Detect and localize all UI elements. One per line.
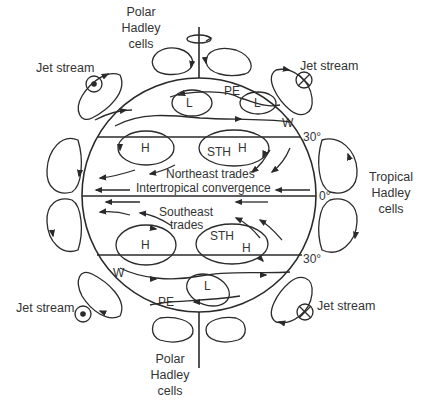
low-north-1-label: L [186,96,193,110]
polar-cell-bottom-left [153,318,194,342]
pe-south-label: PE [158,295,174,309]
low-north-2-label: L [254,96,261,110]
sth-south-label: STH [210,229,234,243]
pe-north-label: PE [224,84,240,98]
polar-cell-top-left [152,48,193,75]
high-north-2-label: H [238,141,247,155]
high-south-1-label: H [141,238,150,252]
itcz-label: Intertropical convergence [136,181,271,195]
w-north-label: W [282,116,294,130]
polar-cell-top-right [206,49,251,76]
sth-north-label: STH [207,145,231,159]
lat-30n-label: 30° [303,130,321,144]
southeast-trades-label-2: trades [170,218,203,232]
tropical-cell-left-north [47,138,81,193]
polar-cells-bottom-label-1: Polar [155,352,184,366]
lat-30s-label: 30° [303,252,321,266]
polar-cells-top-label-1: Polar [126,5,155,19]
tropical-cells-label-3: cells [378,202,403,216]
tropical-cells-label-1: Tropical [369,170,413,184]
jet-stream-label-ne: Jet stream [300,59,358,73]
jet-stream-label-nw: Jet stream [36,61,94,75]
ferrel-cell-outer-se [271,278,312,323]
global-circulation-diagram: 30° 0° 30° [0,0,426,406]
westerly-south [120,268,290,279]
polar-cells-bottom-label-2: Hadley [151,368,191,382]
tropical-cell-right-north [319,139,357,193]
polar-cells-bottom-label-3: cells [157,384,182,398]
high-north-1-label: H [141,141,150,155]
polar-cell-bottom-right [206,318,245,342]
w-south-label: W [113,266,125,280]
jet-stream-label-se: Jet stream [317,299,375,313]
polar-cells-top-label-3: cells [128,37,153,51]
westerly-north [115,115,290,126]
high-south-2-label: H [242,241,251,255]
northeast-trades-label: Northeast trades [166,167,255,181]
tropical-cell-left-south [47,199,81,251]
polar-cells-top-label-2: Hadley [122,21,162,35]
jet-stream-label-sw: Jet stream [16,301,74,315]
tropical-cell-right-south [319,199,357,252]
low-south-label: L [204,279,211,293]
tropical-cells-label-2: Hadley [372,186,412,200]
southeast-trades-label-1: Southeast [159,205,214,219]
